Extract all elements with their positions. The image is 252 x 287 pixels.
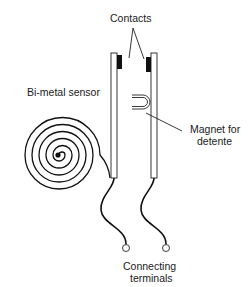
right-terminal xyxy=(163,245,170,252)
bimetal-spiral xyxy=(25,117,110,189)
contacts-leader xyxy=(129,28,144,59)
bimetal-label: Bi-metal sensor xyxy=(27,86,100,98)
left-contact xyxy=(117,55,122,69)
terminals-label-line2: terminals xyxy=(130,272,173,284)
magnet-label-line2: detente xyxy=(197,135,232,147)
magnet-inner xyxy=(132,98,148,107)
thermostat-diagram: Contacts Magnet for detente Bi-metal sen… xyxy=(0,0,252,287)
right-contact xyxy=(146,57,151,72)
terminals-label-line1: Connecting xyxy=(123,260,176,272)
left-terminal xyxy=(123,245,130,252)
right-wire xyxy=(141,178,166,244)
spiral-center xyxy=(55,152,60,157)
left-contact-strip xyxy=(111,53,117,178)
left-wire xyxy=(101,178,126,244)
magnet-label-line1: Magnet for xyxy=(190,123,241,135)
contacts-label: Contacts xyxy=(110,12,151,24)
